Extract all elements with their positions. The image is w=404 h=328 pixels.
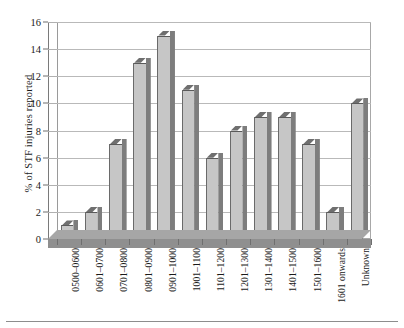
gridline-connector (48, 22, 57, 23)
x-tick-label: 0801–0900 (144, 248, 154, 292)
x-tick-mark (154, 239, 155, 245)
bar[interactable] (133, 63, 146, 239)
x-tick-label: 0701–0800 (119, 248, 129, 292)
bar-side-face (267, 112, 272, 233)
x-tick-mark (105, 239, 106, 245)
bar-slot (326, 22, 339, 239)
x-tick-mark (347, 239, 348, 245)
y-tick-mark (43, 211, 48, 212)
x-tick-mark (202, 239, 203, 245)
gridline-connector (48, 212, 57, 213)
bar-top-edge (158, 36, 170, 37)
bottom-rule (6, 321, 398, 322)
y-tick-mark (43, 184, 48, 185)
bar[interactable] (302, 144, 315, 239)
bar-slot (61, 22, 74, 239)
bar-slot (133, 22, 146, 239)
bar[interactable] (254, 117, 267, 239)
bar-slot (157, 22, 170, 239)
x-tick-label: 1001–1100 (192, 248, 202, 291)
bar[interactable] (206, 158, 219, 239)
x-tick-label: Unknown (361, 248, 371, 286)
bar-top-edge (183, 90, 195, 91)
gridline-connector (48, 103, 57, 104)
bar-slot (230, 22, 243, 239)
gridline-connector (48, 49, 57, 50)
bar-side-face (242, 126, 247, 234)
bar-top-edge (134, 63, 146, 64)
bar[interactable] (278, 117, 291, 239)
bar-top-edge (86, 212, 98, 213)
y-tick-mark (43, 49, 48, 50)
bar-top-edge (231, 131, 243, 132)
x-tick-label: 0901–1000 (168, 248, 178, 292)
gridline-connector (48, 76, 57, 77)
x-tick-label: 1501–1600 (313, 248, 323, 292)
bar-top-edge (62, 225, 74, 226)
x-tick-label: 1201–1300 (240, 248, 250, 292)
y-axis-line (48, 22, 49, 248)
bar-top-edge (255, 117, 267, 118)
gridline-connector (48, 158, 57, 159)
y-tick-mark (43, 157, 48, 158)
bar-top-edge (279, 117, 291, 118)
bar-top-edge (327, 212, 339, 213)
y-tick-mark (43, 103, 48, 104)
x-tick-mark (178, 239, 179, 245)
bar-side-face (363, 98, 368, 233)
bar-slot (254, 22, 267, 239)
x-tick-mark (274, 239, 275, 245)
x-tick-mark (57, 239, 58, 245)
bar-slot (109, 22, 122, 239)
bar-slot (182, 22, 195, 239)
x-tick-mark (129, 239, 130, 245)
plot-floor-top (48, 230, 371, 239)
x-tick-label: 0601–0700 (95, 248, 105, 292)
bar-side-face (146, 58, 151, 233)
bar-side-face (122, 139, 127, 233)
bar-side-face (170, 31, 175, 233)
x-tick-label: 0500–0600 (71, 248, 81, 292)
bar-side-face (315, 139, 320, 233)
y-tick-mark (43, 22, 48, 23)
bar[interactable] (182, 90, 195, 239)
bar-top-edge (352, 103, 364, 104)
x-tick-label: 1101–1200 (216, 248, 226, 291)
bar-chart-figure: % of STF injuries reported 0246810121416… (0, 0, 404, 328)
x-tick-mark (323, 239, 324, 245)
x-tick-label: 1601 onwards (337, 248, 347, 303)
bar-side-face (218, 153, 223, 233)
x-tick-label: 1301–1400 (264, 248, 274, 292)
x-tick-mark (299, 239, 300, 245)
bar-top-edge (110, 144, 122, 145)
gridline-connector (48, 131, 57, 132)
bar-side-face (291, 112, 296, 233)
y-axis-title: % of STF injuries reported (23, 34, 34, 234)
bar-side-face (97, 207, 102, 233)
x-tick-label: 1401–1500 (288, 248, 298, 292)
bar-slot (278, 22, 291, 239)
bar-side-face (194, 85, 199, 233)
bar-slot (206, 22, 219, 239)
bar-series (57, 22, 371, 239)
x-tick-mark (226, 239, 227, 245)
bar-top-edge (303, 144, 315, 145)
bar-slot (302, 22, 315, 239)
bar[interactable] (157, 36, 170, 239)
x-tick-mark (371, 239, 372, 245)
bar[interactable] (230, 131, 243, 240)
bar[interactable] (109, 144, 122, 239)
x-axis-ticks: 0500–06000601–07000701–08000801–09000901… (57, 248, 371, 318)
bar-slot (85, 22, 98, 239)
y-tick-mark (43, 76, 48, 77)
plot-area: 0246810121416 (57, 22, 371, 239)
bar-top-edge (207, 158, 219, 159)
x-tick-mark (81, 239, 82, 245)
y-tick-mark (43, 130, 48, 131)
bar-side-face (339, 207, 344, 233)
gridline-connector (48, 185, 57, 186)
bar[interactable] (351, 103, 364, 239)
bar-slot (351, 22, 364, 239)
x-tick-mark (250, 239, 251, 245)
